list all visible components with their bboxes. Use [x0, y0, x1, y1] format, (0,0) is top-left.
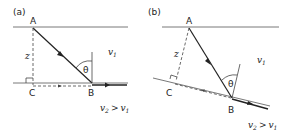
- incident-ray: [189, 28, 232, 98]
- panel-b: (b) A θ z C B v1 v2>v1: [148, 7, 279, 131]
- point-c-label: C: [29, 88, 35, 98]
- theta-label: θ: [83, 65, 89, 75]
- depth-z-label: z: [173, 49, 179, 59]
- point-a-label: A: [30, 16, 37, 26]
- velocity-relation: v2>v1: [100, 103, 129, 114]
- point-c-label: C: [166, 88, 172, 98]
- panel-b-label: (b): [148, 7, 161, 17]
- depth-z-label: z: [24, 51, 30, 61]
- panel-a-label: (a): [13, 7, 26, 17]
- point-b-label: B: [88, 88, 94, 98]
- path-cb-arrow-icon: [58, 85, 62, 88]
- refraction-diagram: (a) A θ z C B v1 v2>v1 (b) A: [0, 0, 289, 132]
- theta-label: θ: [228, 79, 234, 89]
- point-b-label: B: [228, 105, 234, 115]
- panel-a: (a) A θ z C B v1 v2>v1: [13, 7, 129, 114]
- point-a-label: A: [186, 16, 193, 26]
- right-angle-icon: [26, 78, 33, 83]
- v1-label: v1: [257, 55, 266, 66]
- velocity-relation: v2>v1: [248, 120, 277, 131]
- right-angle-icon: [170, 75, 177, 79]
- v1-label: v1: [108, 47, 117, 58]
